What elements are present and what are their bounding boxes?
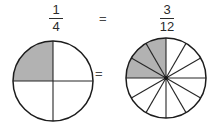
fraction-equivalence-diagram: 1 4 = 3 12 = [0, 0, 212, 127]
quarters-circle [13, 41, 93, 121]
pie-circles-canvas [0, 0, 212, 127]
twelfths-circle [126, 38, 206, 118]
